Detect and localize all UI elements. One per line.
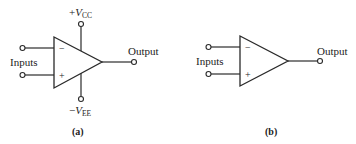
vcc-label: +VCC: [69, 6, 92, 20]
output-label-b: Output: [317, 45, 348, 57]
noninverting-sign-b: +: [245, 69, 251, 80]
op-amp-diagram-b: − + Inputs Output (b): [196, 36, 348, 138]
inverting-sign-a: −: [59, 43, 65, 54]
caption-a: (a): [72, 126, 84, 138]
inverting-sign-b: −: [245, 42, 251, 53]
op-amp-diagram-a: − + Inputs Output +VCC −VEE (a): [10, 6, 159, 138]
inputs-label-b: Inputs: [196, 55, 224, 67]
vee-label: −VEE: [69, 104, 92, 118]
op-amp-figure: − + Inputs Output +VCC −VEE (a) − + Inpu…: [0, 0, 356, 144]
output-terminal-b: [318, 59, 323, 64]
noninverting-sign-a: +: [59, 70, 65, 81]
inputs-label-a: Inputs: [10, 56, 38, 68]
vcc-terminal: [79, 22, 84, 27]
output-label-a: Output: [128, 45, 159, 57]
noninverting-input-terminal-b: [206, 72, 211, 77]
output-terminal-a: [132, 60, 137, 65]
noninverting-input-terminal-a: [20, 73, 25, 78]
inverting-input-terminal-a: [20, 46, 25, 51]
vee-terminal: [79, 97, 84, 102]
caption-b: (b): [265, 126, 277, 138]
inverting-input-terminal-b: [206, 45, 211, 50]
